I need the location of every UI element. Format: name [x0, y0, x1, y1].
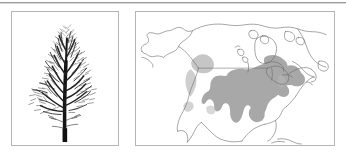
range-map-image [136, 12, 334, 145]
tree-photo-panel [11, 11, 119, 146]
figure-root [0, 0, 346, 156]
tree-photo-image [12, 12, 118, 145]
range-map-panel [135, 11, 335, 146]
tree-trunk-base [63, 128, 68, 142]
header-divider-rule-shadow [0, 3, 346, 4]
